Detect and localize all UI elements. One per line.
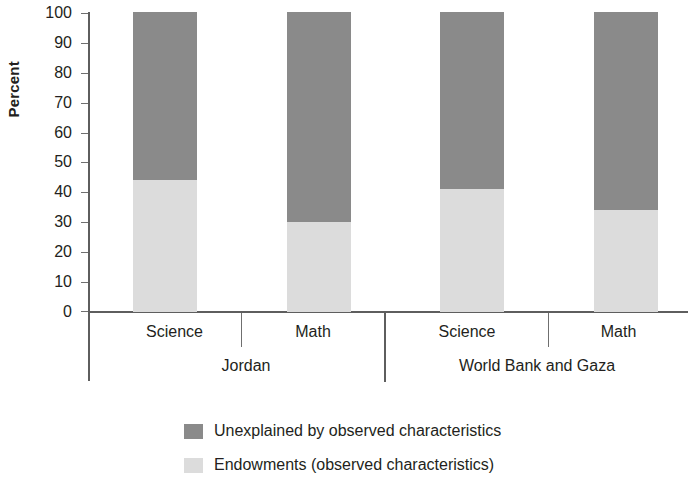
- bar-segment-endowments: [287, 222, 351, 312]
- legend-label-endowments: Endowments (observed characteristics): [214, 457, 494, 473]
- legend-swatch-icon-unexplained: [184, 424, 203, 439]
- y-tick-mark-90: [81, 43, 88, 44]
- bar-westbank-science: [440, 12, 504, 312]
- y-tick-mark-50: [81, 162, 88, 163]
- legend-swatch-icon-endowments: [184, 458, 203, 473]
- y-axis-title: Percent: [5, 92, 22, 118]
- y-tick-label-80: 80: [26, 65, 72, 81]
- bar-jordan-math: [287, 12, 351, 312]
- y-tick-label-10: 10: [26, 274, 72, 290]
- legend-item-endowments: Endowments (observed characteristics): [0, 448, 690, 482]
- bar-segment-unexplained: [287, 12, 351, 222]
- y-tick-mark-40: [81, 192, 88, 193]
- x-label-jordan-science: Science: [108, 318, 241, 346]
- bar-segment-unexplained: [133, 12, 197, 180]
- y-tick-mark-100: [81, 13, 88, 14]
- y-tick-mark-30: [81, 222, 88, 223]
- y-tick-mark-20: [81, 252, 88, 253]
- bar-segment-endowments: [594, 210, 658, 312]
- y-tick-label-40: 40: [26, 184, 72, 200]
- y-axis-tick-labels: 100 90 80 70 60 50 40 30 20 10 0: [26, 0, 72, 330]
- bar-segment-unexplained: [440, 12, 504, 189]
- bar-jordan-science: [133, 12, 197, 312]
- x-axis-label-band: Science Math Science Math Jordan World B…: [88, 312, 688, 381]
- stacked-bar-chart: Percent 100 90 80 70 60 50 40 30 20 10 0: [0, 0, 690, 482]
- y-tick-label-90: 90: [26, 35, 72, 51]
- y-tick-label-100: 100: [26, 5, 72, 21]
- x-group-label-westbank: World Bank and Gaza: [386, 352, 688, 380]
- y-tick-label-60: 60: [26, 125, 72, 141]
- bar-segment-endowments: [133, 180, 197, 312]
- y-tick-mark-70: [81, 103, 88, 104]
- bar-segment-endowments: [440, 189, 504, 312]
- y-tick-mark-10: [81, 282, 88, 283]
- legend-label-unexplained: Unexplained by observed characteristics: [214, 423, 501, 439]
- y-tick-label-70: 70: [26, 95, 72, 111]
- plot-area: [88, 12, 688, 312]
- x-label-jordan-math: Math: [242, 318, 384, 346]
- bar-segment-unexplained: [594, 12, 658, 210]
- x-label-westbank-math: Math: [549, 318, 688, 346]
- x-group-label-jordan: Jordan: [108, 352, 384, 380]
- y-tick-mark-0: [81, 311, 88, 312]
- y-tick-label-30: 30: [26, 214, 72, 230]
- legend-item-unexplained: Unexplained by observed characteristics: [0, 414, 690, 448]
- bar-westbank-math: [594, 12, 658, 312]
- y-tick-mark-60: [81, 133, 88, 134]
- y-tick-mark-80: [81, 73, 88, 74]
- y-tick-label-0: 0: [26, 304, 72, 320]
- y-tick-label-20: 20: [26, 244, 72, 260]
- legend: Unexplained by observed characteristics …: [0, 414, 690, 482]
- y-tick-label-50: 50: [26, 154, 72, 170]
- x-label-westbank-science: Science: [386, 318, 548, 346]
